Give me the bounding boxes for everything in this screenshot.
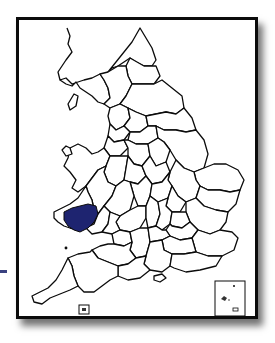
- lundy-island: [65, 247, 67, 249]
- county-map: [19, 20, 255, 316]
- isles-of-scilly-inset: [79, 305, 89, 314]
- county-cumbria: [58, 28, 110, 104]
- map-frame: [16, 17, 258, 319]
- channel-islands-inset: [215, 281, 245, 316]
- county-cornwall: [32, 258, 78, 304]
- county-isle-of-wight: [154, 274, 166, 282]
- county-kent: [192, 230, 238, 256]
- isle-of-man: [68, 94, 78, 110]
- legend-marker-dash: [0, 270, 7, 273]
